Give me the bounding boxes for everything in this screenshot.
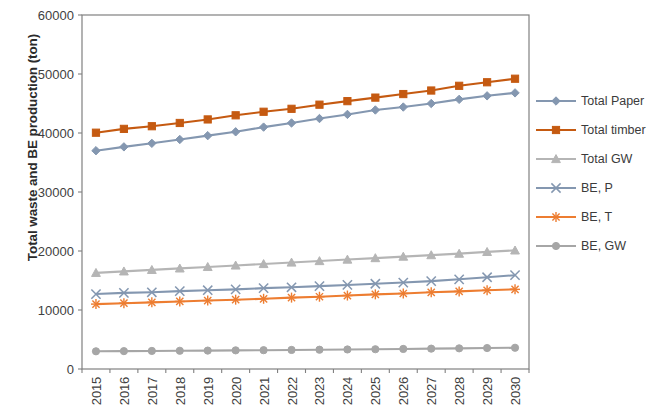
data-point — [176, 135, 184, 143]
data-point — [314, 292, 324, 302]
legend-marker-icon — [536, 94, 576, 108]
legend-marker-icon — [536, 123, 576, 137]
legend-label: BE, GW — [581, 239, 626, 253]
y-axis-tick-label: 40000 — [8, 126, 74, 141]
data-point — [315, 114, 323, 122]
data-point — [552, 242, 559, 249]
data-point — [372, 94, 379, 101]
data-point — [287, 119, 295, 127]
data-point — [343, 110, 351, 118]
legend-item-be-p[interactable]: BE, P — [536, 173, 664, 202]
data-point — [551, 183, 560, 192]
data-point — [455, 95, 463, 103]
data-point — [483, 344, 490, 351]
legend-marker-icon — [536, 239, 576, 253]
data-point — [204, 347, 211, 354]
data-point — [344, 98, 351, 105]
data-point — [91, 299, 101, 309]
data-point — [232, 112, 239, 119]
data-point — [175, 296, 185, 306]
y-axis-tick-label: 30000 — [8, 185, 74, 200]
data-point — [260, 108, 267, 115]
y-axis-tick-label: 0 — [8, 362, 74, 377]
data-point — [511, 75, 518, 82]
series-total-gw — [92, 246, 520, 276]
data-point — [372, 346, 379, 353]
data-point — [454, 286, 464, 296]
data-point — [92, 129, 99, 136]
legend-marker-icon — [536, 181, 576, 195]
data-point — [176, 119, 183, 126]
data-point — [399, 103, 407, 111]
data-point — [426, 287, 436, 297]
data-point — [120, 348, 127, 355]
data-point — [400, 90, 407, 97]
legend-item-total-paper[interactable]: Total Paper — [536, 86, 664, 115]
data-point — [511, 344, 518, 351]
legend-marker-icon — [536, 210, 576, 224]
data-point — [428, 87, 435, 94]
data-point — [316, 346, 323, 353]
data-point — [456, 345, 463, 352]
data-point — [204, 131, 212, 139]
series-line — [96, 79, 515, 133]
data-point — [344, 346, 351, 353]
y-axis-tick-label: 20000 — [8, 244, 74, 259]
legend-label: Total GW — [581, 152, 632, 166]
legend-marker-icon — [536, 152, 576, 166]
data-point — [370, 289, 380, 299]
data-point — [148, 123, 155, 130]
plot-frame — [82, 15, 529, 369]
x-axis-tick-label: 2029 — [480, 377, 495, 405]
series-total-paper — [92, 89, 519, 155]
x-axis-tick-label: 2027 — [424, 377, 439, 405]
data-point — [400, 345, 407, 352]
data-point — [92, 147, 100, 155]
data-point — [203, 296, 213, 306]
data-point — [176, 347, 183, 354]
data-point — [316, 101, 323, 108]
x-axis-tick-label: 2015 — [89, 377, 104, 405]
x-axis-tick-label: 2025 — [368, 377, 383, 405]
legend-label: Total Paper — [581, 94, 644, 108]
data-point — [232, 347, 239, 354]
legend-item-be-gw[interactable]: BE, GW — [536, 231, 664, 260]
data-point — [288, 105, 295, 112]
data-point — [342, 291, 352, 301]
data-point — [288, 346, 295, 353]
data-point — [482, 285, 492, 295]
y-axis-tick-label: 10000 — [8, 303, 74, 318]
data-point — [204, 116, 211, 123]
x-axis-tick-label: 2018 — [173, 377, 188, 405]
data-point — [120, 125, 127, 132]
legend-label: BE, T — [581, 210, 612, 224]
data-point — [398, 288, 408, 298]
data-point — [483, 79, 490, 86]
data-point — [510, 284, 520, 294]
data-point — [456, 82, 463, 89]
series-line — [96, 348, 515, 352]
data-point — [231, 295, 241, 305]
x-axis-tick-label: 2021 — [257, 377, 272, 405]
x-axis-tick-label: 2016 — [117, 377, 132, 405]
legend-item-total-gw[interactable]: Total GW — [536, 144, 664, 173]
series-line — [96, 250, 515, 272]
legend-item-total-timber[interactable]: Total timber — [536, 115, 664, 144]
legend-label: Total timber — [581, 123, 646, 137]
x-axis-tick-label: 2020 — [229, 377, 244, 405]
legend-item-be-t[interactable]: BE, T — [536, 202, 664, 231]
x-axis-tick-label: 2024 — [340, 377, 355, 405]
x-axis-tick-label: 2028 — [452, 377, 467, 405]
data-point — [287, 293, 297, 303]
data-point — [428, 345, 435, 352]
data-point — [259, 294, 269, 304]
data-point — [119, 298, 129, 308]
y-axis-tick-label: 60000 — [8, 8, 74, 23]
x-axis-tick-label: 2019 — [201, 377, 216, 405]
x-axis-tick-label: 2026 — [396, 377, 411, 405]
x-axis-tick-label: 2017 — [145, 377, 160, 405]
data-point — [259, 123, 267, 131]
series-line — [96, 93, 515, 151]
y-axis-tick-labels: 0100002000030000400005000060000 — [8, 0, 74, 416]
x-axis-tick-label: 2022 — [285, 377, 300, 405]
